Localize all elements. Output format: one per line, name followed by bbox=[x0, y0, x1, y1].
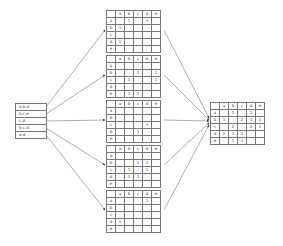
matrix-cell: 1 bbox=[134, 129, 143, 136]
matrix-cell bbox=[116, 205, 125, 212]
matrix-cell bbox=[125, 226, 134, 233]
row-label: b bbox=[211, 117, 220, 124]
matrix-cell bbox=[256, 110, 265, 117]
matrix-cell bbox=[143, 174, 152, 181]
row-label: d bbox=[107, 219, 116, 226]
matrix-cell: 1 bbox=[134, 174, 143, 181]
row-label: c bbox=[107, 77, 116, 84]
header-row: abcde bbox=[107, 191, 161, 198]
matrix-cell: 1 bbox=[229, 131, 238, 138]
matrix-cell bbox=[125, 25, 134, 32]
matrix-cell bbox=[152, 63, 161, 70]
matrix-cell: 1 bbox=[125, 18, 134, 25]
matrix-cell bbox=[152, 108, 161, 115]
matrix-cell bbox=[134, 167, 143, 174]
column-header: d bbox=[143, 11, 152, 18]
matrix-cell: 1 bbox=[116, 219, 125, 226]
column-header bbox=[107, 56, 116, 63]
matrix-cell bbox=[143, 153, 152, 160]
transaction-list: a,b,d b,c,e c,d b,c,d a,d bbox=[15, 103, 47, 139]
row-label: d bbox=[107, 129, 116, 136]
matrix-cell bbox=[116, 129, 125, 136]
matrix-cell: 1 bbox=[247, 117, 256, 124]
matrix-cell: 2 bbox=[247, 110, 256, 117]
matrix-cell: 1 bbox=[256, 117, 265, 124]
matrix-cell bbox=[152, 39, 161, 46]
arrow-matrix-3-to-result bbox=[164, 120, 209, 121]
matrix-cell bbox=[134, 153, 143, 160]
row-label: d bbox=[211, 131, 220, 138]
matrix-cell bbox=[143, 136, 152, 143]
matrix-cell bbox=[143, 32, 152, 39]
matrix-cell: 1 bbox=[125, 91, 134, 98]
matrix-cell bbox=[143, 108, 152, 115]
matrix-cell: 1 bbox=[256, 124, 265, 131]
matrix-row: d1 bbox=[107, 219, 161, 226]
matrix-cell: 1 bbox=[143, 198, 152, 205]
matrix-cell bbox=[152, 219, 161, 226]
column-header: c bbox=[134, 11, 143, 18]
matrix-row: a bbox=[107, 153, 161, 160]
matrix-cell: 1 bbox=[116, 39, 125, 46]
matrix-row: a1 bbox=[107, 198, 161, 205]
matrix-cell bbox=[152, 115, 161, 122]
column-header: d bbox=[143, 191, 152, 198]
matrix-cell bbox=[247, 138, 256, 145]
column-header: b bbox=[125, 191, 134, 198]
row-label: a bbox=[107, 153, 116, 160]
matrix-cell bbox=[125, 115, 134, 122]
matrix-cell bbox=[134, 39, 143, 46]
matrix-cell: 1 bbox=[134, 91, 143, 98]
matrix-cell: 1 bbox=[125, 167, 134, 174]
matrix-row: d1 bbox=[107, 129, 161, 136]
matrix-cell bbox=[125, 108, 134, 115]
matrix-cell bbox=[229, 117, 238, 124]
column-header: e bbox=[256, 103, 265, 110]
row-label: b bbox=[107, 205, 116, 212]
result-matrix: abcdea12b1211c221d212e11 bbox=[210, 102, 265, 145]
matrix-row: c11 bbox=[107, 77, 161, 84]
cooccurrence-matrix-4: abcdeab11c11d11e bbox=[106, 145, 161, 188]
matrix-cell: 1 bbox=[134, 160, 143, 167]
header-row: abcde bbox=[211, 103, 265, 110]
matrix-cell bbox=[134, 219, 143, 226]
matrix-cell bbox=[152, 212, 161, 219]
cooccurrence-matrix-3: abcdeabc1d1e bbox=[106, 100, 161, 143]
matrix-cell bbox=[143, 25, 152, 32]
matrix-row: e11 bbox=[107, 91, 161, 98]
matrix-cell bbox=[152, 46, 161, 53]
column-header: a bbox=[220, 103, 229, 110]
matrix-cell bbox=[116, 46, 125, 53]
column-header bbox=[107, 146, 116, 153]
matrix-cell bbox=[152, 91, 161, 98]
column-header: a bbox=[116, 11, 125, 18]
matrix-row: e bbox=[107, 136, 161, 143]
column-header: a bbox=[116, 191, 125, 198]
matrix-row: b11 bbox=[107, 70, 161, 77]
matrix-cell bbox=[152, 136, 161, 143]
matrix-cell bbox=[143, 46, 152, 53]
matrix-cell: 1 bbox=[152, 70, 161, 77]
matrix-cell bbox=[116, 212, 125, 219]
column-header: c bbox=[134, 56, 143, 63]
matrix-cell bbox=[116, 63, 125, 70]
column-header bbox=[211, 103, 220, 110]
row-label: b bbox=[107, 160, 116, 167]
matrix-cell bbox=[116, 226, 125, 233]
column-header: a bbox=[116, 101, 125, 108]
matrix-cell bbox=[152, 122, 161, 129]
matrix-cell: 1 bbox=[229, 138, 238, 145]
row-label: e bbox=[107, 136, 116, 143]
row-label: a bbox=[107, 63, 116, 70]
cooccurrence-matrix-5: abcdea1bcd1e bbox=[106, 190, 161, 233]
row-label: a bbox=[107, 198, 116, 205]
column-header: c bbox=[238, 103, 247, 110]
matrix-cell bbox=[134, 63, 143, 70]
matrix-row: b1 bbox=[107, 25, 161, 32]
matrix-cell bbox=[116, 115, 125, 122]
transaction-item: b,c,e bbox=[16, 111, 46, 118]
matrix-cell bbox=[238, 124, 247, 131]
matrix-cell bbox=[220, 110, 229, 117]
matrix-cell bbox=[152, 198, 161, 205]
matrix-row: d212 bbox=[211, 131, 265, 138]
